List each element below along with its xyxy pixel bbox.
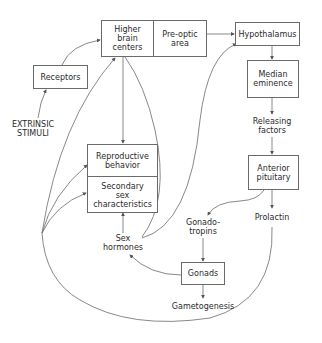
- higher-brain-centers-label: Higher brain centers: [113, 25, 143, 52]
- reproductive-behavior-label: Reproductive behavior: [96, 152, 149, 170]
- receptors-box: Receptors: [33, 65, 88, 89]
- secondary-sex-characteristics-label: Secondary sex characteristics: [93, 182, 152, 209]
- gonads-label: Gonads: [188, 269, 218, 278]
- median-eminence-label: Median eminence: [253, 70, 292, 88]
- reproductive-behavior-box: Reproductive behavior Secondary sex char…: [87, 144, 158, 213]
- sex-hormones-label: Sex hormones: [97, 234, 149, 252]
- releasing-factors-label: Releasing factors: [240, 117, 304, 135]
- higher-brain-centers-box: Higher brain centers: [101, 20, 154, 57]
- prolactin-label: Prolactin: [246, 213, 298, 222]
- median-eminence-box: Median eminence: [247, 60, 299, 98]
- gonads-box: Gonads: [181, 262, 225, 285]
- hypothalamus-label: Hypothalamus: [239, 30, 297, 39]
- preoptic-area-box: Pre-optic area: [153, 20, 207, 57]
- gametogenesis-label: Gametogenesis: [166, 302, 240, 311]
- receptors-label: Receptors: [40, 73, 80, 82]
- gonadotropins-label: Gonado- tropins: [180, 218, 226, 236]
- anterior-pituitary-box: Anterior pituitary: [248, 155, 299, 190]
- extrinsic-stimuli-label: EXTRINSIC STIMULI: [5, 120, 61, 138]
- hypothalamus-box: Hypothalamus: [235, 22, 300, 46]
- anterior-pituitary-label: Anterior pituitary: [257, 164, 291, 182]
- preoptic-area-label: Pre-optic area: [162, 30, 197, 48]
